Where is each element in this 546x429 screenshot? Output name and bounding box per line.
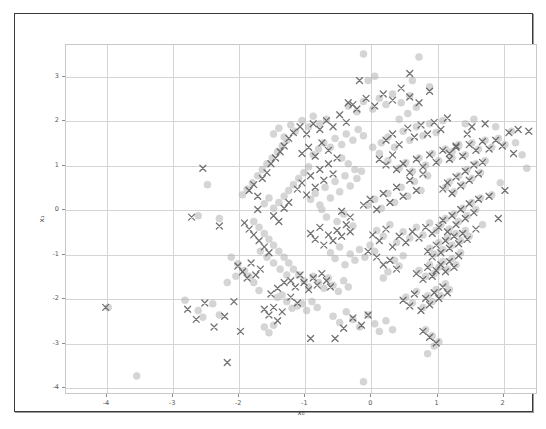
data-point-x bbox=[189, 214, 195, 220]
data-point-circle bbox=[358, 168, 365, 175]
x-tick-label: 1 bbox=[434, 400, 438, 407]
data-point-x bbox=[312, 236, 318, 242]
data-point-x bbox=[256, 238, 262, 244]
data-point-circle bbox=[256, 224, 263, 231]
y-tick-mark bbox=[62, 387, 65, 388]
data-point-circle bbox=[275, 248, 282, 255]
data-point-circle bbox=[270, 130, 277, 137]
y-tick-label: 1 bbox=[43, 162, 59, 169]
data-point-circle bbox=[312, 190, 319, 197]
data-point-x bbox=[347, 214, 353, 220]
y-tick-label: 0 bbox=[43, 206, 59, 213]
data-point-circle bbox=[492, 123, 499, 130]
data-point-circle bbox=[482, 137, 489, 144]
data-point-circle bbox=[462, 120, 469, 127]
data-point-circle bbox=[338, 141, 345, 148]
data-point-circle bbox=[250, 218, 257, 225]
data-point-x bbox=[398, 85, 404, 91]
data-point-circle bbox=[400, 252, 407, 259]
data-point-x bbox=[211, 324, 217, 330]
data-point-circle bbox=[470, 116, 477, 123]
data-point-x bbox=[200, 165, 206, 171]
data-point-circle bbox=[270, 259, 277, 266]
data-point-x bbox=[347, 229, 353, 235]
data-point-x bbox=[308, 173, 314, 179]
data-point-x bbox=[438, 127, 444, 133]
data-point-circle bbox=[228, 254, 235, 261]
data-point-circle bbox=[402, 159, 409, 166]
data-point-x bbox=[330, 124, 336, 130]
data-point-circle bbox=[323, 116, 330, 123]
data-point-x bbox=[216, 223, 222, 229]
data-point-x bbox=[276, 219, 282, 225]
data-point-x bbox=[337, 112, 343, 118]
data-point-circle bbox=[263, 160, 270, 167]
data-point-circle bbox=[181, 297, 188, 304]
data-point-circle bbox=[360, 50, 367, 57]
y-tick-label: -4 bbox=[43, 384, 59, 391]
data-point-x bbox=[526, 128, 532, 134]
x-tick-label: 2 bbox=[501, 400, 505, 407]
data-point-circle bbox=[295, 175, 302, 182]
data-point-circle bbox=[479, 221, 486, 228]
data-point-circle bbox=[318, 206, 325, 213]
x-axis-title: x₀ bbox=[298, 410, 305, 417]
data-point-x bbox=[271, 213, 277, 219]
data-point-x bbox=[473, 226, 479, 232]
data-point-circle bbox=[199, 314, 206, 321]
data-point-x bbox=[310, 121, 316, 127]
figure-frame: -4-3-2-1012 -4-3-2-10123 x₀ x₁ bbox=[14, 13, 533, 412]
data-point-circle bbox=[335, 288, 342, 295]
data-point-x bbox=[261, 306, 267, 312]
y-tick-mark bbox=[62, 343, 65, 344]
data-point-x bbox=[281, 279, 287, 285]
data-point-x bbox=[275, 285, 281, 291]
data-point-circle bbox=[265, 236, 272, 243]
data-point-circle bbox=[433, 129, 440, 136]
data-point-x bbox=[264, 170, 270, 176]
x-tick-label: -1 bbox=[301, 400, 307, 407]
data-point-x bbox=[299, 180, 305, 186]
data-point-circle bbox=[305, 163, 312, 170]
data-point-circle bbox=[216, 215, 223, 222]
data-point-x bbox=[257, 266, 263, 272]
data-point-circle bbox=[462, 151, 469, 158]
data-point-circle bbox=[349, 316, 356, 323]
data-point-x bbox=[185, 306, 191, 312]
data-point-x bbox=[403, 239, 409, 245]
data-point-x bbox=[325, 161, 331, 167]
data-point-x bbox=[292, 284, 298, 290]
data-point-circle bbox=[323, 214, 330, 221]
data-point-x bbox=[380, 262, 386, 268]
data-point-x bbox=[495, 215, 501, 221]
data-point-x bbox=[306, 144, 312, 150]
data-point-circle bbox=[295, 271, 302, 278]
data-point-circle bbox=[497, 179, 504, 186]
data-point-x bbox=[241, 220, 247, 226]
y-tick-mark bbox=[62, 298, 65, 299]
x-tick-label: 0 bbox=[368, 400, 372, 407]
data-point-circle bbox=[406, 92, 413, 99]
data-point-x bbox=[319, 271, 325, 277]
data-point-x bbox=[390, 131, 396, 137]
data-point-x bbox=[308, 231, 314, 237]
data-point-circle bbox=[259, 166, 266, 173]
data-point-x bbox=[405, 125, 411, 131]
data-point-circle bbox=[351, 166, 358, 173]
y-tick-mark bbox=[62, 165, 65, 166]
data-point-x bbox=[248, 260, 254, 266]
data-point-circle bbox=[360, 378, 367, 385]
data-point-x bbox=[325, 232, 331, 238]
data-point-circle bbox=[261, 200, 268, 207]
data-point-circle bbox=[424, 350, 431, 357]
data-point-x bbox=[304, 131, 310, 137]
y-tick-mark bbox=[62, 209, 65, 210]
data-point-circle bbox=[315, 146, 322, 153]
data-point-x bbox=[304, 192, 310, 198]
data-point-circle bbox=[275, 125, 282, 132]
data-point-circle bbox=[404, 110, 411, 117]
data-point-circle bbox=[332, 135, 339, 142]
x-tick-mark bbox=[172, 394, 173, 397]
data-point-circle bbox=[501, 141, 508, 148]
data-point-x bbox=[294, 186, 300, 192]
